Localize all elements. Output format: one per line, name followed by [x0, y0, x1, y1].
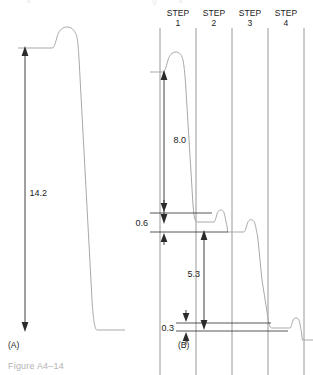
panel-a-dim-label-14-2: 14.2 — [29, 188, 47, 198]
figure-svg: 14.2 (A) STEP 1 STEP 2 STEP 3 — [0, 0, 313, 375]
figure-container: aga 14.2 (A) STEP 1 — [0, 0, 313, 375]
panel-b-dim-5-3-arrowhead-bottom — [201, 320, 208, 330]
step-2-word: STEP — [203, 8, 226, 18]
panel-b-trace — [150, 52, 313, 340]
panel-b-dim-0-6-arrowhead-up — [161, 233, 168, 242]
panel-b-dim-8-0-arrowhead-bottom — [161, 214, 168, 224]
panel-a-group: 14.2 (A) — [8, 27, 125, 350]
panel-b-dim-label-5-3: 5.3 — [187, 269, 200, 279]
panel-a-dim-arrowhead-bottom — [22, 322, 29, 332]
panel-b-label: (B) — [178, 340, 190, 350]
panel-b-dim-0-3-arrowhead-down — [183, 313, 190, 322]
step-1-number: 1 — [176, 18, 181, 28]
step-3-word: STEP — [239, 8, 262, 18]
panel-b-dim-0-6-arrowhead-down — [161, 203, 168, 212]
step-header-1: STEP 1 — [167, 8, 190, 28]
panel-b-dim-5-3-arrowhead-top — [201, 230, 208, 240]
step-4-number: 4 — [284, 18, 289, 28]
panel-a-label: (A) — [8, 340, 20, 350]
panel-b-group: STEP 1 STEP 2 STEP 3 STEP 4 8.0 — [135, 8, 313, 375]
step-1-word: STEP — [167, 8, 190, 18]
figure-caption: Figure A4–14 — [8, 361, 64, 371]
panel-a-trace — [18, 27, 125, 330]
panel-b-dim-label-8-0: 8.0 — [173, 135, 186, 145]
step-4-word: STEP — [275, 8, 298, 18]
step-header-2: STEP 2 — [203, 8, 226, 28]
step-header-4: STEP 4 — [275, 8, 298, 28]
step-3-number: 3 — [248, 18, 253, 28]
panel-b-dim-label-0-6: 0.6 — [135, 218, 148, 228]
step-2-number: 2 — [212, 18, 217, 28]
step-header-3: STEP 3 — [239, 8, 262, 28]
panel-b-dim-label-0-3: 0.3 — [161, 323, 174, 333]
